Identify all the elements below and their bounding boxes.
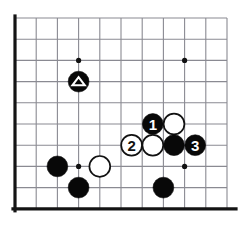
stone-move-2-white[interactable]: 2 xyxy=(121,135,142,156)
board-edge-lines xyxy=(13,16,236,211)
stone-black-left-lower[interactable] xyxy=(47,156,68,177)
stone-move-1-black[interactable]: 1 xyxy=(142,114,163,135)
stone-white[interactable] xyxy=(164,114,185,135)
star-point-lower-left xyxy=(76,164,81,169)
stone-black-lower-right[interactable] xyxy=(153,177,174,198)
stone-white-upper-right[interactable] xyxy=(164,114,185,135)
stone-white[interactable] xyxy=(89,156,110,177)
star-point-lower-right xyxy=(182,164,187,169)
stone-white-center[interactable] xyxy=(142,135,163,156)
go-board-canvas: 123 xyxy=(0,0,246,231)
stone-black-lower-left-below[interactable] xyxy=(68,177,89,198)
stones-layer: 123 xyxy=(47,71,206,198)
stone-move-3-black[interactable]: 3 xyxy=(185,135,206,156)
stone-black[interactable] xyxy=(68,177,89,198)
move-number-label: 3 xyxy=(191,137,199,154)
stone-black[interactable] xyxy=(164,135,185,156)
stone-white[interactable] xyxy=(142,135,163,156)
star-point-upper-left xyxy=(76,58,81,63)
go-diagram-root: 123 xyxy=(0,0,246,231)
grid-lines xyxy=(15,18,227,209)
move-number-label: 2 xyxy=(127,137,135,154)
stone-white-lower-left[interactable] xyxy=(89,156,110,177)
stone-black[interactable] xyxy=(153,177,174,198)
star-point-upper-right xyxy=(182,58,187,63)
stone-black-center[interactable] xyxy=(164,135,185,156)
stone-triangle-black[interactable] xyxy=(68,71,89,92)
move-number-label: 1 xyxy=(149,116,157,133)
stone-black[interactable] xyxy=(68,71,89,92)
stone-black[interactable] xyxy=(47,156,68,177)
